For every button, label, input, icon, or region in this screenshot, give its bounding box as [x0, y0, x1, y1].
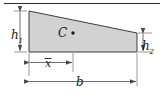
xbar-label: x — [45, 57, 52, 70]
centroid-label: C — [58, 26, 67, 40]
centroid-dot — [71, 31, 74, 34]
figure-canvas: h 1 h 2 x b C — [0, 0, 164, 94]
h2-label-subscript: 2 — [149, 48, 155, 56]
trapezoid-shape — [29, 11, 137, 52]
b-label: b — [76, 75, 84, 89]
h1-label-subscript: 1 — [19, 37, 23, 45]
trapezoid-centroid-figure: h 1 h 2 x b C — [0, 0, 164, 94]
